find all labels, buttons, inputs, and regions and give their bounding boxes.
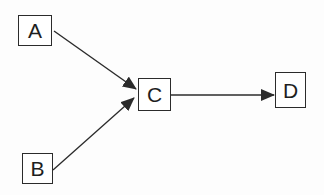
diagram-canvas: A B C D [0,0,324,195]
node-a-label: A [28,20,42,41]
node-d: D [275,72,306,108]
node-b: B [22,153,53,184]
node-b-label: B [30,158,44,179]
edge-b-to-c [53,98,134,170]
node-d-label: D [283,80,298,101]
edge-a-to-c [54,31,136,89]
node-c: C [138,78,171,111]
node-a: A [18,15,52,46]
node-c-label: C [147,84,162,105]
